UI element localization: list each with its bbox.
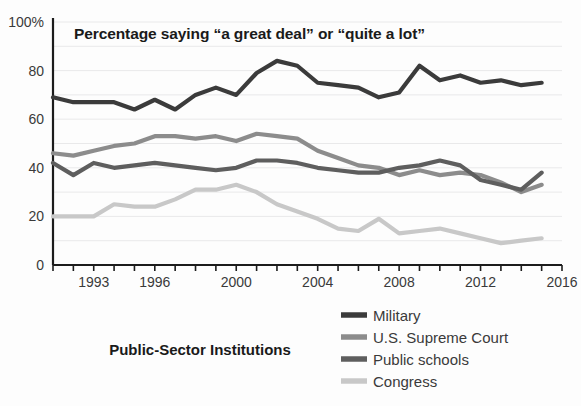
- series-line-congress: [53, 185, 542, 243]
- legend-label: Military: [373, 307, 421, 324]
- axes: [53, 18, 562, 265]
- x-tick-label: 2016: [546, 274, 577, 290]
- x-tick-label: 1996: [139, 274, 170, 290]
- x-tick-label: 2000: [221, 274, 252, 290]
- series-line-military: [53, 61, 542, 110]
- x-tick-label: 2008: [384, 274, 415, 290]
- x-axis-tick-labels: 1993199620002004200820122016: [78, 274, 578, 290]
- x-tick-label: 1993: [78, 274, 109, 290]
- line-chart: 020406080100% 19931996200020042008201220…: [0, 0, 581, 406]
- y-tick-label: 40: [28, 160, 44, 176]
- data-series-lines: [53, 61, 542, 243]
- panel-label: Public-Sector Institutions: [109, 341, 291, 358]
- legend-label: U.S. Supreme Court: [373, 329, 509, 346]
- chart-figure: 020406080100% 19931996200020042008201220…: [0, 0, 581, 406]
- legend-label: Public schools: [373, 351, 469, 368]
- y-tick-label: 100%: [8, 14, 44, 30]
- y-tick-label: 0: [36, 257, 44, 273]
- y-axis-tick-labels: 020406080100%: [8, 14, 44, 273]
- x-tick-label: 2004: [302, 274, 333, 290]
- chart-legend: MilitaryU.S. Supreme CourtPublic schools…: [341, 307, 509, 390]
- y-tick-label: 60: [28, 111, 44, 127]
- x-tick-label: 2012: [465, 274, 496, 290]
- chart-title: Percentage saying “a great deal” or “qui…: [74, 25, 425, 42]
- y-tick-label: 80: [28, 63, 44, 79]
- legend-label: Congress: [373, 373, 437, 390]
- y-tick-label: 20: [28, 208, 44, 224]
